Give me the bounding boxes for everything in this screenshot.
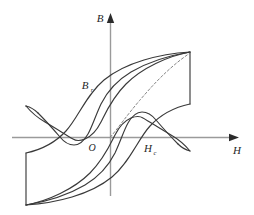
coercivity-subscript: c bbox=[154, 149, 157, 156]
h-axis-label: H bbox=[232, 144, 242, 156]
inner-descending-curve bbox=[26, 52, 190, 141]
coercivity-symbol: H bbox=[143, 142, 153, 154]
origin-label: O bbox=[88, 142, 95, 153]
h-axis-arrowhead bbox=[229, 134, 239, 141]
b-axis-arrowhead bbox=[107, 13, 114, 23]
inner-ascending-curve bbox=[26, 117, 190, 206]
b-axis-label: B bbox=[97, 12, 104, 24]
lower-outer-arc bbox=[26, 104, 190, 205]
remanence-label: B r bbox=[82, 79, 94, 93]
hysteresis-figure: B H O B r H c bbox=[0, 0, 254, 215]
coercivity-label: H c bbox=[143, 142, 157, 156]
remanence-symbol: B bbox=[82, 79, 89, 91]
hysteresis-diagram: B H O B r H c bbox=[0, 0, 254, 215]
